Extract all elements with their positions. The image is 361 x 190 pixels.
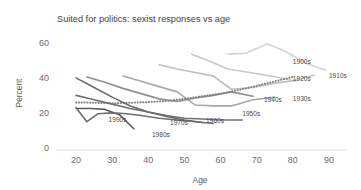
series-label-1920s: 1920s [293,75,312,82]
series-label-1910s: 1910s [329,72,348,79]
series-label-1940s: 1940s [264,96,283,103]
chart-container: Suited for politics: sexist responses vs… [0,0,361,190]
series-label-1990s: 1990s [109,116,128,123]
series-label-1980s: 1980s [152,131,171,138]
x-tick-label: 50 [179,155,189,165]
x-tick-label: 60 [216,155,226,165]
y-tick-label: 60 [39,38,49,48]
x-axis-label: Age [193,175,208,185]
series-label-1930s: 1930s [293,95,312,102]
x-tick-label: 40 [143,155,153,165]
x-tick-label: 30 [107,155,117,165]
x-tick-label: 20 [71,155,81,165]
y-tick-label: 20 [39,108,49,118]
series-line-1900s [228,44,326,70]
series-label-1900s: 1900s [293,58,312,65]
x-tick-label: 80 [288,155,298,165]
x-axis-ticks: 2030405060708090 [56,150,347,165]
series-label-1970s: 1970s [170,119,189,126]
series-label-1960s: 1960s [206,117,225,124]
line-chart: Suited for politics: sexist responses vs… [0,0,361,190]
y-axis-ticks: 0204060 [39,38,49,153]
chart-title: Suited for politics: sexist responses vs… [57,14,230,24]
x-tick-label: 90 [324,155,334,165]
series-label-1950s: 1950s [242,110,261,117]
y-tick-label: 0 [44,143,49,153]
y-axis-label: Percent [14,78,24,108]
y-tick-label: 40 [39,73,49,83]
x-tick-label: 70 [252,155,262,165]
